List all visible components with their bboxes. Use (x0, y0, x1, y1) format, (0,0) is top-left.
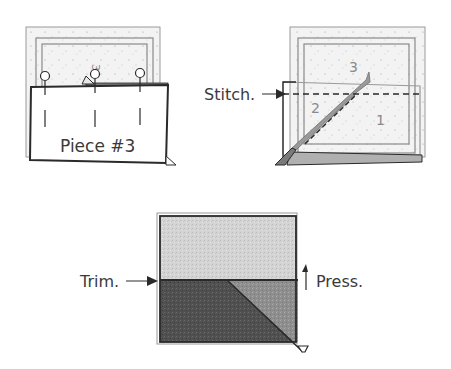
figure-stitch: 3 2 1 Stitch. (204, 27, 425, 165)
arrow-right-icon (147, 276, 158, 286)
diagram-canvas: 3 Piece #3 (0, 0, 451, 369)
piece-label: Piece #3 (60, 136, 135, 156)
section-number-1: 1 (376, 112, 385, 128)
figure-trim-press: Trim. Press. (79, 213, 363, 352)
fabric-corner-tip (298, 346, 308, 352)
stitch-callout-label: Stitch. (204, 85, 255, 104)
arrow-right-icon (276, 89, 286, 99)
section-number-2: 2 (311, 100, 320, 116)
fabric-light-top (160, 216, 296, 280)
section-number-3: 3 (349, 59, 358, 75)
arrow-up-icon (302, 264, 308, 272)
figure-place-piece: 3 Piece #3 (26, 27, 176, 165)
piece-3-corner-tip (166, 156, 176, 165)
press-callout-label: Press. (316, 272, 363, 291)
trim-callout-label: Trim. (79, 272, 119, 291)
